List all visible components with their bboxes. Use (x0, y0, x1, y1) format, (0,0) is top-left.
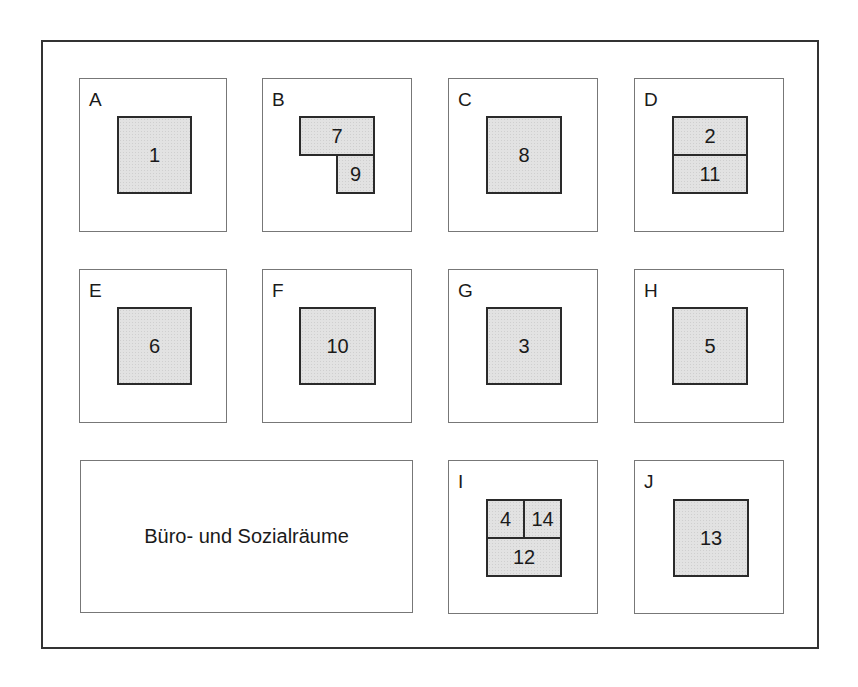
zone-label: J (644, 472, 654, 491)
zone-label: B (272, 90, 285, 109)
zone-label: G (458, 281, 473, 300)
office-label: Büro- und Sozialräume (81, 461, 412, 612)
room-number: 11 (700, 163, 721, 186)
room-12: 12 (486, 537, 562, 577)
room-14: 14 (523, 499, 562, 539)
zone-h: H 5 (634, 269, 784, 423)
zone-a: A 1 (79, 78, 227, 232)
room-10: 10 (299, 307, 376, 385)
office-social-rooms: Büro- und Sozialräume (80, 460, 413, 613)
room-number: 7 (331, 125, 342, 148)
room-11: 11 (672, 154, 748, 194)
zone-label: F (272, 281, 284, 300)
room-13: 13 (673, 499, 749, 577)
room-4: 4 (486, 499, 525, 539)
room-1: 1 (117, 116, 192, 194)
zone-e: E 6 (79, 269, 227, 423)
room-number: 6 (149, 335, 160, 358)
zone-label: A (89, 90, 102, 109)
room-number: 8 (518, 144, 529, 167)
zone-c: C 8 (448, 78, 598, 232)
zone-label: D (644, 90, 658, 109)
zone-b: B 7 9 (262, 78, 412, 232)
room-number: 9 (350, 163, 361, 186)
room-number: 14 (531, 508, 553, 531)
room-3: 3 (486, 307, 562, 385)
room-2: 2 (672, 116, 748, 156)
room-9: 9 (336, 154, 375, 194)
zone-i: I 4 14 12 (448, 460, 598, 614)
room-number: 10 (326, 335, 348, 358)
room-5: 5 (672, 307, 748, 385)
room-number: 13 (700, 527, 722, 550)
room-7: 7 (299, 116, 375, 156)
room-6: 6 (117, 307, 192, 385)
zone-j: J 13 (634, 460, 784, 614)
room-number: 4 (500, 508, 511, 531)
room-number: 1 (149, 144, 160, 167)
zone-f: F 10 (262, 269, 412, 423)
zone-d: D 2 11 (634, 78, 784, 232)
room-number: 2 (704, 125, 715, 148)
room-number: 3 (518, 335, 529, 358)
room-number: 12 (513, 546, 535, 569)
zone-label: I (458, 472, 463, 491)
room-number: 5 (704, 335, 715, 358)
zone-label: H (644, 281, 658, 300)
room-8: 8 (486, 116, 562, 194)
zone-g: G 3 (448, 269, 598, 423)
zone-label: E (89, 281, 102, 300)
zone-label: C (458, 90, 472, 109)
